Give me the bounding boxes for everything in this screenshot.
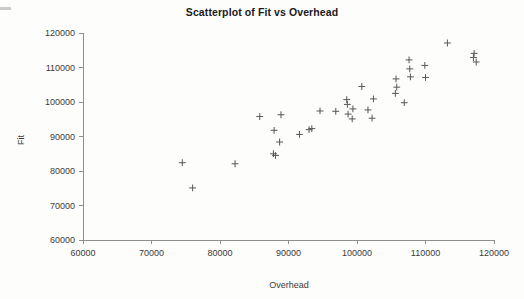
data-point — [392, 90, 399, 97]
data-point — [276, 139, 283, 146]
data-point — [401, 99, 408, 106]
data-point — [344, 101, 351, 108]
data-point — [421, 62, 428, 69]
y-tick-label: 80000 — [50, 166, 75, 176]
x-axis: 60000700008000090000100000110000120000 — [70, 240, 509, 258]
y-tick-label: 100000 — [45, 97, 75, 107]
y-tick-label: 90000 — [50, 132, 75, 142]
x-tick-label: 70000 — [139, 248, 164, 258]
data-point — [189, 185, 196, 192]
y-tick-label: 110000 — [46, 63, 75, 73]
y-tick-label: 70000 — [50, 201, 75, 211]
data-point — [332, 108, 339, 115]
data-point — [444, 40, 451, 47]
data-point — [256, 113, 263, 120]
data-point — [271, 127, 278, 134]
data-point — [471, 50, 478, 57]
data-point — [349, 106, 356, 113]
x-tick-label: 110000 — [411, 248, 440, 258]
data-point — [317, 108, 324, 115]
data-point — [365, 107, 372, 114]
y-tick-label: 60000 — [50, 235, 75, 245]
x-tick-label: 90000 — [276, 248, 301, 258]
x-axis-title: Overhead — [269, 280, 309, 290]
data-point — [345, 111, 352, 118]
data-point — [407, 73, 414, 80]
data-point — [369, 115, 376, 122]
x-tick-label: 120000 — [479, 248, 509, 258]
data-point — [278, 111, 285, 118]
data-point — [349, 116, 356, 123]
x-tick-label: 100000 — [342, 248, 372, 258]
chart-page: Scatterplot of Fit vs Overhead 600007000… — [0, 0, 524, 299]
data-point — [406, 65, 413, 72]
y-tick-label: 120000 — [45, 28, 75, 38]
x-tick-label: 60000 — [70, 248, 95, 258]
data-point — [343, 96, 350, 103]
data-point — [179, 159, 186, 166]
data-point — [232, 160, 239, 167]
scatterplot-canvas: 60000700008000090000100000110000120000 6… — [0, 0, 524, 299]
data-point — [370, 95, 377, 102]
y-axis: 60000700008000090000100000110000120000 — [45, 28, 83, 245]
data-point — [422, 74, 429, 81]
data-point — [358, 83, 365, 90]
data-point-layer — [179, 40, 480, 192]
data-point — [393, 84, 400, 91]
data-point — [393, 75, 400, 82]
data-point — [406, 57, 413, 64]
y-axis-title: Fit — [16, 135, 26, 145]
x-tick-label: 80000 — [207, 248, 232, 258]
data-point — [296, 131, 303, 138]
